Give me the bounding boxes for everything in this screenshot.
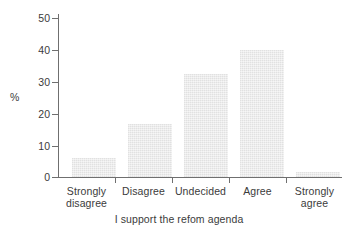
x-axis-label-undecided: Undecided [170, 185, 231, 197]
x-axis-tick-mark-1 [115, 178, 116, 183]
x-axis-line [58, 177, 342, 178]
x-axis-tick-mark-2 [172, 178, 173, 183]
bar-strongly-agree [296, 172, 340, 177]
bar-strongly-disagree [72, 158, 116, 177]
x-axis-title: I support the refom agenda [0, 213, 358, 225]
y-axis-tick-label-40: 40 [8, 45, 50, 56]
x-axis-label-line1: Disagree [115, 185, 172, 197]
x-axis-label-line2: agree [286, 197, 343, 209]
x-axis-label-agree: Agree [229, 185, 286, 197]
y-axis-tick-label-30: 30 [8, 77, 50, 88]
x-axis-label-line1: Strongly [58, 185, 115, 197]
bar-disagree [128, 124, 172, 177]
x-axis-label-disagree: Disagree [115, 185, 172, 197]
y-axis-tick-label-10: 10 [8, 141, 50, 152]
bar-undecided [184, 74, 228, 177]
y-axis-title: % [10, 91, 19, 103]
y-axis-tick-label-20: 20 [8, 109, 50, 120]
y-axis-tick-label-50: 50 [8, 13, 50, 24]
plot-area [58, 14, 342, 177]
bar-agree [240, 50, 284, 177]
x-axis-label-strongly-agree: Strongly agree [286, 185, 343, 209]
x-axis-label-line1: Undecided [170, 185, 231, 197]
x-axis-label-line1: Strongly [286, 185, 343, 197]
x-axis-label-strongly-disagree: Strongly disagree [58, 185, 115, 209]
y-axis-tick-label-0: 0 [8, 172, 50, 183]
x-axis-label-line1: Agree [229, 185, 286, 197]
x-axis-tick-mark-4 [286, 178, 287, 183]
x-axis-label-line2: disagree [58, 197, 115, 209]
bar-chart: % 50 40 30 20 10 0 Strongly disagree Dis… [0, 0, 358, 243]
x-axis-tick-mark-3 [229, 178, 230, 183]
